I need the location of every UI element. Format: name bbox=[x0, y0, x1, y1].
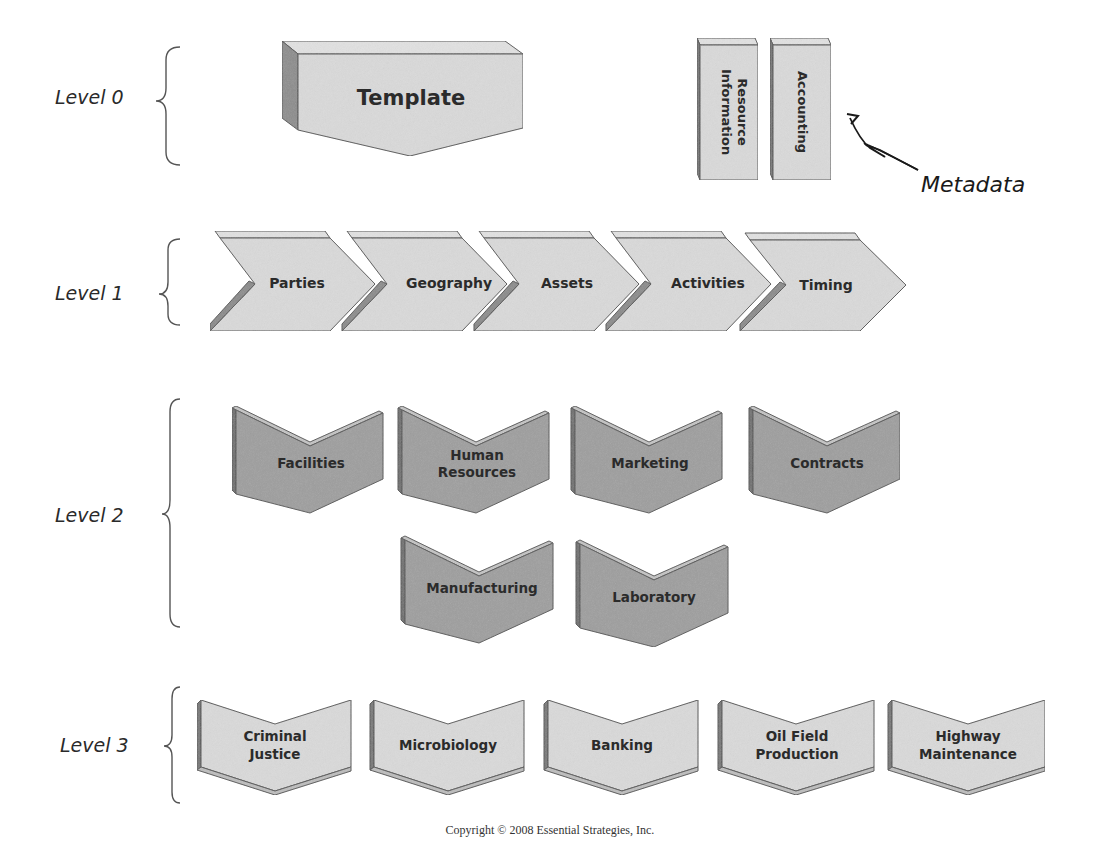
metadata-arrow-icon bbox=[847, 114, 918, 170]
diagram-canvas: Level 0 Level 1 Level 2 Level 3 Template… bbox=[0, 0, 1100, 849]
shape-label-microbiology: Microbiology bbox=[399, 737, 497, 753]
chevron-label-parties: Parties bbox=[269, 275, 325, 291]
level-1-label: Level 1 bbox=[55, 282, 124, 304]
shape-label-resources: Resources bbox=[438, 464, 516, 480]
metadata-label-resource: Resource bbox=[735, 78, 750, 146]
chevron-label-geography: Geography bbox=[406, 275, 492, 291]
level-3-row: Level 3 bbox=[60, 687, 180, 803]
level-0-row: Level 0 bbox=[55, 47, 180, 165]
box-top-face bbox=[697, 38, 758, 45]
shape-label-maintenance: Maintenance bbox=[919, 746, 1017, 762]
copyright-text: Copyright © 2008 Essential Strategies, I… bbox=[446, 823, 655, 837]
template-label: Template bbox=[357, 86, 465, 110]
level-2-shapes bbox=[232, 406, 900, 647]
level-1-row: Level 1 bbox=[55, 239, 180, 325]
shape-label-marketing: Marketing bbox=[611, 455, 688, 471]
level-3-label: Level 3 bbox=[60, 734, 129, 756]
template-top-face bbox=[282, 41, 523, 54]
level-3-brace bbox=[164, 687, 180, 803]
shape-label-justice: Justice bbox=[249, 746, 301, 762]
box-top-face bbox=[770, 38, 831, 45]
shape-label-production: Production bbox=[755, 746, 838, 762]
shape-label-human: Human bbox=[450, 447, 504, 463]
shape-label-oil-field: Oil Field bbox=[766, 728, 829, 744]
metadata-label-accounting: Accounting bbox=[795, 71, 810, 153]
chevron-label-activities: Activities bbox=[671, 275, 745, 291]
level-2-label: Level 2 bbox=[55, 504, 124, 526]
level-2-brace bbox=[162, 399, 180, 627]
shape-label-laboratory: Laboratory bbox=[612, 589, 696, 605]
shape-label-banking: Banking bbox=[591, 737, 653, 753]
chevron-label-assets: Assets bbox=[541, 275, 593, 291]
layer-diagram: Level 0 Level 1 Level 2 Level 3 Template… bbox=[0, 0, 1100, 849]
level-2-row: Level 2 bbox=[55, 399, 180, 627]
metadata-label-information: Information bbox=[719, 69, 734, 155]
shape-label-criminal: Criminal bbox=[243, 728, 306, 744]
shape-label-manufacturing: Manufacturing bbox=[426, 580, 537, 596]
level-1-brace bbox=[159, 239, 180, 325]
template-side-face bbox=[282, 41, 298, 130]
shape-label-highway: Highway bbox=[935, 728, 1000, 744]
level-0-label: Level 0 bbox=[55, 86, 124, 108]
level-0-brace bbox=[156, 47, 180, 165]
shape-label-contracts: Contracts bbox=[790, 455, 864, 471]
metadata-label: Metadata bbox=[921, 172, 1025, 197]
shape-label-facilities: Facilities bbox=[277, 455, 345, 471]
chevron-label-timing: Timing bbox=[799, 277, 853, 293]
